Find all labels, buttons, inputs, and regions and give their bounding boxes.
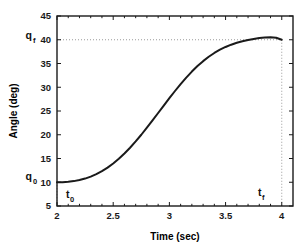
annotation-q0-subscript: 0	[33, 177, 37, 186]
x-axis-title: Time (sec)	[150, 231, 199, 242]
x-tick-label-0: 2	[54, 210, 59, 221]
y-axis-title: Angle (deg)	[8, 84, 19, 139]
annotation-qf-subscript: f	[33, 36, 36, 45]
y-tick-label-8: 45	[40, 10, 51, 21]
x-tick-label-3: 3.5	[219, 210, 233, 221]
annotation-q0: q 0	[26, 170, 38, 186]
annotation-qf-base: q	[26, 29, 32, 41]
y-tick-label-1: 10	[40, 177, 51, 188]
y-tick-label-0: 5	[46, 200, 52, 211]
y-tick-label-5: 30	[40, 82, 51, 93]
angle-vs-time-chart: 22.533.54 51015202530354045 Time (sec) A…	[0, 0, 306, 247]
annotation-qf: q f	[26, 29, 36, 45]
x-tick-label-1: 2.5	[107, 210, 121, 221]
y-tick-label-7: 40	[40, 34, 51, 45]
y-tick-label-4: 25	[40, 105, 51, 116]
y-axis-tick-labels: 51015202530354045	[40, 10, 51, 211]
annotation-q0-base: q	[26, 170, 32, 182]
x-tick-label-2: 3	[167, 210, 172, 221]
y-tick-label-6: 35	[40, 58, 51, 69]
x-axis-tick-labels: 22.533.54	[54, 210, 285, 221]
y-tick-label-3: 20	[40, 129, 51, 140]
x-tick-label-4: 4	[279, 210, 285, 221]
y-tick-label-2: 15	[40, 153, 51, 164]
annotation-t0-subscript: 0	[70, 195, 74, 204]
plot-area-background	[57, 16, 293, 206]
figure-panel: 22.533.54 51015202530354045 Time (sec) A…	[0, 0, 306, 247]
